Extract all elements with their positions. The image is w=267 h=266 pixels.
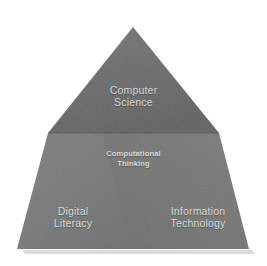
pyramid-shadow bbox=[22, 250, 255, 254]
pyramid-graphic bbox=[0, 0, 267, 266]
pyramid-diagram: Computer Science Computational Thinking … bbox=[0, 0, 267, 266]
section-computer-science bbox=[48, 27, 219, 133]
